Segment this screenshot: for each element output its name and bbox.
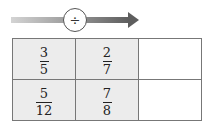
operation-arrow: ÷: [11, 8, 141, 32]
fraction: 7 8: [103, 87, 112, 117]
grid-row-2: 5 12 7 8: [13, 80, 202, 121]
operation-symbol: ÷: [70, 14, 81, 27]
grid-cell-r1c2: 2 7: [76, 39, 139, 80]
denominator: 5: [40, 63, 48, 77]
arrow-head-icon: [128, 12, 139, 28]
numerator: 2: [103, 46, 111, 60]
numerator: 5: [40, 87, 48, 101]
grid-cell-r1c1: 3 5: [13, 39, 76, 80]
numerator: 7: [103, 87, 111, 101]
denominator: 8: [103, 104, 111, 118]
grid-cell-r2c1: 5 12: [13, 80, 76, 121]
numerator: 3: [40, 46, 48, 60]
denominator: 12: [36, 104, 53, 118]
division-icon: ÷: [63, 8, 87, 32]
answer-cell-r1[interactable]: [139, 39, 202, 80]
fraction: 5 12: [36, 87, 53, 117]
fraction: 2 7: [103, 46, 112, 76]
grid-cell-r2c2: 7 8: [76, 80, 139, 121]
answer-cell-r2[interactable]: [139, 80, 202, 121]
grid-row-1: 3 5 2 7: [13, 39, 202, 80]
denominator: 7: [103, 63, 111, 77]
fraction-grid: 3 5 2 7 5 12 7 8: [12, 38, 202, 121]
fraction: 3 5: [40, 46, 49, 76]
